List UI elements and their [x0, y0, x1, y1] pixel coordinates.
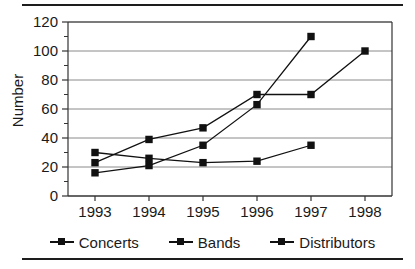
square-marker-icon — [270, 236, 294, 248]
data-point-marker — [253, 158, 260, 165]
series-line-concerts — [95, 37, 311, 173]
y-axis-tick-label: 40 — [18, 129, 58, 146]
data-point-marker — [307, 142, 314, 149]
x-axis-tick-label: 1997 — [283, 203, 339, 220]
y-axis-tick-label: 120 — [18, 13, 58, 30]
square-marker-icon — [169, 236, 193, 248]
square-marker-icon — [50, 236, 74, 248]
plot-area: Number 020406080100120 19931994199519961… — [0, 0, 415, 269]
legend-label: Concerts — [79, 234, 139, 251]
data-point-marker — [253, 101, 260, 108]
x-axis-tick-label: 1996 — [229, 203, 285, 220]
chart-figure: Number 020406080100120 19931994199519961… — [0, 0, 415, 269]
y-axis-tick-label: 100 — [18, 42, 58, 59]
x-axis-tick-label: 1995 — [175, 203, 231, 220]
data-point-marker — [91, 159, 98, 166]
data-point-marker — [199, 142, 206, 149]
data-point-marker — [145, 155, 152, 162]
legend-label: Distributors — [299, 234, 375, 251]
data-point-marker — [145, 136, 152, 143]
data-point-marker — [199, 159, 206, 166]
data-point-marker — [145, 162, 152, 169]
data-point-marker — [253, 91, 260, 98]
legend-label: Bands — [198, 234, 241, 251]
series-line-bands — [95, 51, 365, 163]
data-point-marker — [307, 91, 314, 98]
line-chart-canvas — [0, 0, 415, 269]
data-point-marker — [199, 124, 206, 131]
legend-item: Bands — [169, 234, 241, 251]
y-axis-tick-label: 80 — [18, 71, 58, 88]
y-axis-tick-label: 60 — [18, 100, 58, 117]
x-axis-tick-label: 1998 — [337, 203, 393, 220]
y-axis-tick-label: 0 — [18, 187, 58, 204]
data-point-marker — [307, 33, 314, 40]
data-point-marker — [361, 47, 368, 54]
x-axis-tick-label: 1993 — [67, 203, 123, 220]
legend-item: Distributors — [270, 234, 375, 251]
data-point-marker — [91, 169, 98, 176]
legend-item: Concerts — [50, 234, 139, 251]
y-axis-tick-label: 20 — [18, 158, 58, 175]
chart-legend: ConcertsBandsDistributors — [22, 231, 403, 253]
x-axis-tick-label: 1994 — [121, 203, 177, 220]
data-point-marker — [91, 149, 98, 156]
